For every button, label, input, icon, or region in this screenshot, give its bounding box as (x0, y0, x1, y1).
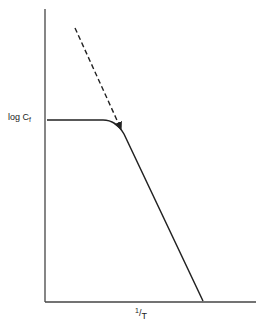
chart-canvas (0, 0, 261, 328)
solid-curve (47, 120, 203, 301)
x-axis-label-denominator: T (141, 311, 147, 321)
dashed-extrapolation (75, 28, 121, 129)
y-axis-label: log Cf (8, 112, 31, 123)
y-axis-label-main: log C (8, 112, 29, 122)
x-axis-label: 1/T (135, 307, 147, 321)
y-axis-label-subscript: f (29, 116, 31, 123)
